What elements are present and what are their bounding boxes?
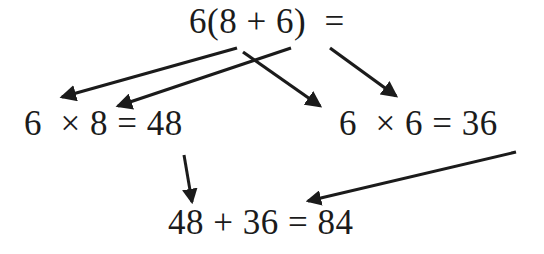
- expression-second-partial-product: 6 × 6 = 36: [339, 106, 498, 141]
- arrow-6-to-right-product: [243, 52, 320, 106]
- arrow-6-to-right-product-outer: [330, 48, 396, 96]
- diagram-canvas: 6(8 + 6) = 6 × 8 = 48 6 × 6 = 36 48 + 36…: [0, 0, 544, 254]
- expression-original: 6(8 + 6) =: [189, 4, 345, 39]
- arrow-8-to-left-product: [118, 48, 291, 106]
- arrow-left-product-to-sum: [184, 155, 192, 202]
- expression-first-partial-product: 6 × 8 = 48: [24, 106, 183, 141]
- arrow-right-product-to-sum: [308, 152, 516, 201]
- arrow-6-to-left-product: [62, 48, 237, 97]
- expression-final-sum: 48 + 36 = 84: [168, 205, 353, 240]
